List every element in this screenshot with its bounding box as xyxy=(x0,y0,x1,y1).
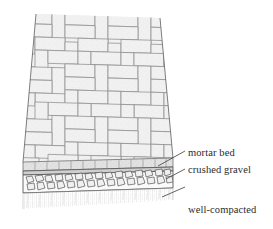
label-crushed-gravel: crushed gravel xyxy=(188,164,251,176)
label-native-soil: well-compacted native soil xyxy=(188,181,256,229)
label-mortar-bed: mortar bed xyxy=(188,147,235,159)
paving-surface xyxy=(9,11,194,175)
label-native-soil-line1: well-compacted xyxy=(188,204,256,216)
herringbone-brick-pattern xyxy=(9,11,194,175)
figure-canvas: mortar bed crushed gravel well-compacted… xyxy=(0,0,273,229)
